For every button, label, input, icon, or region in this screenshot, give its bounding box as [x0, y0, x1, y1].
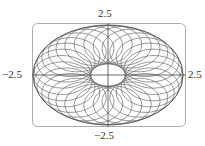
y-max-label: 2.5 — [98, 8, 112, 19]
y-min-label: −2.5 — [94, 130, 114, 141]
x-min-label: −2.5 — [2, 69, 22, 80]
x-max-label: 2.5 — [188, 69, 202, 80]
parametric-plot — [0, 0, 205, 146]
